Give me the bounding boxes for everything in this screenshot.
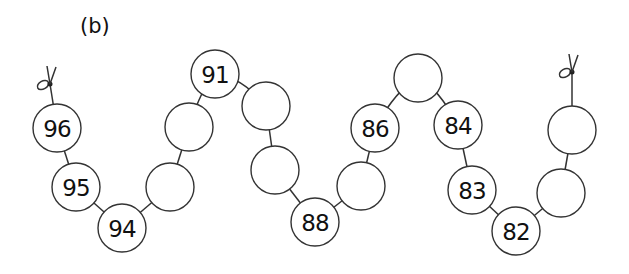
svg-text:96: 96	[43, 116, 71, 142]
string-knots	[36, 54, 578, 91]
bead-blank[interactable]	[394, 54, 442, 102]
svg-text:83: 83	[458, 178, 485, 204]
svg-text:95: 95	[62, 175, 89, 201]
svg-text:84: 84	[444, 113, 472, 139]
bead-82: 82	[492, 207, 540, 255]
beads: 969594918886848382	[33, 50, 596, 255]
bead-blank[interactable]	[165, 103, 213, 151]
knot-icon	[36, 66, 56, 91]
svg-text:91: 91	[201, 62, 228, 88]
bead-string-diagram: 969594918886848382	[0, 0, 629, 274]
svg-text:88: 88	[301, 210, 329, 236]
bead-blank[interactable]	[251, 146, 299, 194]
bead-91: 91	[191, 50, 239, 98]
bead-86: 86	[351, 104, 399, 152]
bead-84: 84	[434, 101, 482, 149]
bead-94: 94	[98, 204, 146, 252]
bead-blank[interactable]	[548, 106, 596, 154]
bead-88: 88	[291, 198, 339, 246]
bead-95: 95	[52, 163, 100, 211]
bead-blank[interactable]	[537, 169, 585, 217]
bead-83: 83	[448, 166, 496, 214]
bead-96: 96	[33, 104, 81, 152]
svg-text:82: 82	[502, 219, 529, 245]
svg-text:86: 86	[361, 116, 389, 142]
bead-blank[interactable]	[242, 82, 290, 130]
svg-text:94: 94	[108, 216, 136, 242]
knot-icon	[558, 54, 578, 79]
bead-blank[interactable]	[337, 162, 385, 210]
bead-blank[interactable]	[146, 163, 194, 211]
